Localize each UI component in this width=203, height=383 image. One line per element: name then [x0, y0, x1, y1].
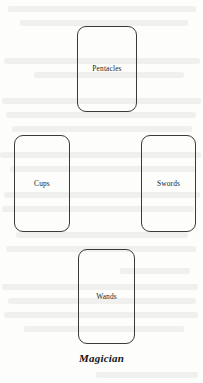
tarot-card-label: Swords	[157, 180, 180, 187]
ghost-text-line	[12, 126, 192, 132]
tarot-card-spread: Pentacles Cups Swords Wands Magician	[0, 0, 203, 383]
tarot-card-wands[interactable]: Wands	[78, 249, 135, 344]
tarot-card-label: Cups	[34, 180, 50, 187]
tarot-card-label: Wands	[96, 293, 117, 300]
tarot-card-swords[interactable]: Swords	[141, 135, 196, 232]
spread-caption: Magician	[0, 352, 203, 365]
ghost-text-line	[8, 6, 196, 12]
tarot-card-cups[interactable]: Cups	[14, 135, 70, 232]
tarot-card-pentacles[interactable]: Pentacles	[77, 26, 137, 112]
ghost-text-line	[96, 372, 198, 378]
tarot-card-label: Pentacles	[92, 65, 121, 72]
ghost-text-line	[6, 112, 196, 118]
ghost-text-line	[16, 232, 188, 238]
